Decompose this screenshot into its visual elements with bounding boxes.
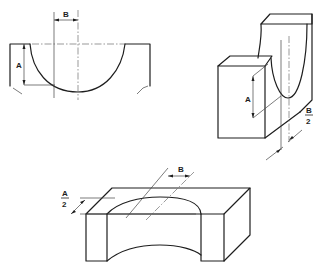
left-pillar-front [86, 214, 107, 261]
label-a2-num: A [62, 189, 68, 198]
back-top-face [261, 14, 312, 24]
front-top-face [218, 56, 272, 66]
figure-saddle-block: A 2 B [61, 165, 250, 261]
technical-drawing: B A A B 2 [0, 0, 320, 268]
right-pillar-front [201, 214, 224, 261]
figure-front-view: B A [10, 10, 150, 100]
a-ext-bottom [253, 96, 281, 118]
saddle-centerline [146, 172, 194, 220]
label-b2-den: 2 [306, 117, 311, 126]
break-line-left [13, 88, 22, 94]
label-a2-den: 2 [62, 200, 67, 209]
right-side-face [224, 188, 250, 261]
back-left-edge [258, 24, 261, 58]
back-right-edge [300, 14, 312, 112]
arch-top-curve [107, 197, 201, 214]
front-face [218, 66, 265, 138]
label-b-front: B [63, 10, 69, 19]
b2-dim-left [266, 147, 283, 160]
figure-isometric-slot: A B 2 [218, 14, 313, 160]
b-ext-left-saddle [126, 168, 168, 218]
front-bottom-edge [265, 112, 300, 138]
label-b2-num: B [306, 106, 312, 115]
label-a-iso: A [245, 95, 251, 104]
b2-dim-right [288, 130, 302, 142]
arch-bottom-curve [107, 245, 201, 261]
label-a-front: A [16, 61, 22, 70]
right-block-outline [125, 44, 150, 86]
b2-arrows-icon [276, 136, 294, 153]
label-b-saddle: B [178, 165, 184, 174]
break-line-right [137, 86, 148, 94]
